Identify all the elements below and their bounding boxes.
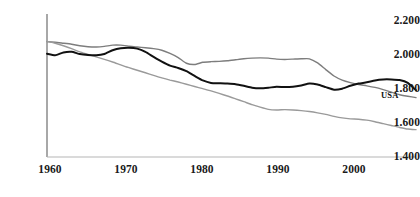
y-axis-tick-label: 2.000 (376, 48, 420, 60)
y-axis-tick-label: 1.400 (376, 150, 420, 162)
series-layer (47, 41, 416, 129)
x-axis-tick-label: 2000 (332, 163, 376, 175)
x-axis-tick-label: 1960 (28, 163, 72, 175)
y-axis-tick-label: 1.600 (376, 116, 420, 128)
x-axis-tick-label: 1970 (104, 163, 148, 175)
x-axis-tick-label: 1980 (180, 163, 224, 175)
usa-series-label: USA (381, 91, 399, 100)
x-axis-tick-label: 1990 (256, 163, 300, 175)
fertility-rate-line-chart: 2.200 2.000 1.800 1.600 1.400 1960 1970 … (0, 0, 420, 197)
y-axis-tick-label: 2.200 (376, 14, 420, 26)
series-line-upper-gray-series (47, 42, 416, 98)
series-line-usa (47, 48, 416, 91)
